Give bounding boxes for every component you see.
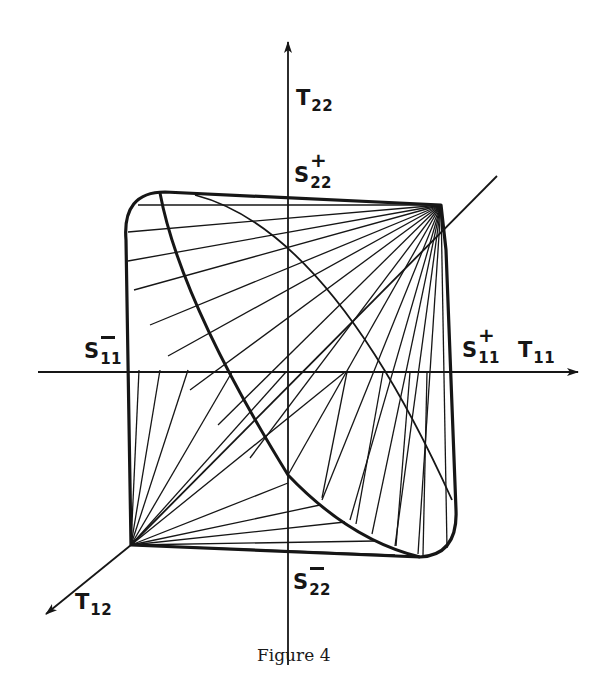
- fan-lines-bottom-left: [131, 370, 395, 555]
- t12-axis-label: T12: [75, 592, 112, 613]
- minus-bar: [310, 567, 324, 570]
- interior-chords-right: [322, 372, 427, 555]
- s22-minus-label: S22: [293, 572, 331, 593]
- t22-axis-label: T22: [296, 88, 333, 109]
- stress-space-diagram: T22 T11 T12 S22 + S11 + S11 S22 Figure 4: [0, 0, 601, 698]
- s11-plus-label: S11 +: [462, 340, 500, 361]
- minus-bar: [101, 336, 115, 339]
- t12-axis-upper: [131, 176, 497, 545]
- s22-plus-label: S22 +: [294, 165, 332, 186]
- figure-caption: Figure 4: [257, 645, 330, 665]
- thick-curve: [160, 193, 420, 557]
- s11-minus-label: S11: [84, 341, 122, 362]
- t11-axis-label: T11: [518, 340, 555, 361]
